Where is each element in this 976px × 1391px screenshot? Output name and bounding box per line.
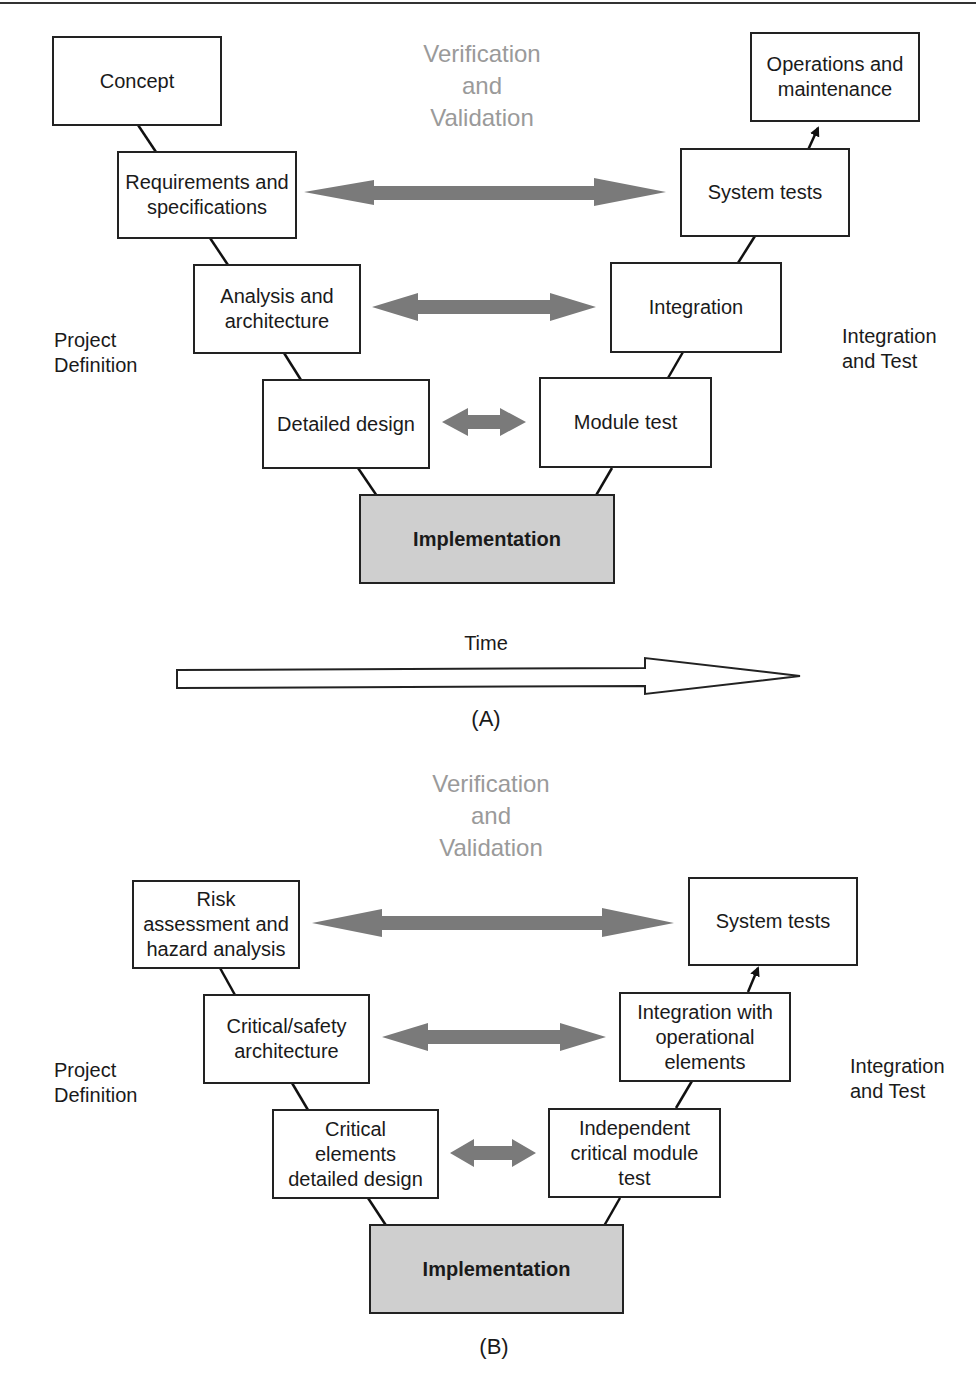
time-arrow xyxy=(177,658,800,694)
box-integration: Integration xyxy=(610,262,782,353)
vv-arrow-arch-integration xyxy=(382,1023,606,1051)
vv-arrow-requirements-system xyxy=(304,178,666,206)
phase-label-integration-test-b: Integration and Test xyxy=(850,1054,945,1104)
box-risk-assessment: Risk assessment and hazard analysis xyxy=(132,880,300,969)
box-integration-operational: Integration with operational elements xyxy=(619,992,791,1082)
vv-arrow-analysis-integration xyxy=(372,293,596,321)
vv-label-a: Verification and Validation xyxy=(402,38,562,134)
phase-label-integration-test-a: Integration and Test xyxy=(842,324,937,374)
phase-label-project-definition-b: Project Definition xyxy=(54,1058,137,1108)
box-critical-detailed-design: Critical elements detailed design xyxy=(272,1109,439,1199)
box-implementation-a: Implementation xyxy=(359,494,615,584)
box-independent-module-test: Independent critical module test xyxy=(548,1108,721,1198)
box-operations-maintenance: Operations and maintenance xyxy=(750,32,920,122)
box-implementation-b: Implementation xyxy=(369,1224,624,1314)
box-system-tests-b: System tests xyxy=(688,877,858,966)
box-requirements: Requirements and specifications xyxy=(117,151,297,239)
vv-arrow-design-moduletest xyxy=(450,1139,536,1167)
vv-label-b: Verification and Validation xyxy=(411,768,571,864)
box-critical-architecture: Critical/safety architecture xyxy=(203,994,370,1084)
box-analysis-architecture: Analysis and architecture xyxy=(193,264,361,354)
caption-b: (B) xyxy=(444,1334,544,1359)
connector-concept-requirements xyxy=(138,125,156,152)
vv-arrow-design-module xyxy=(442,408,526,436)
box-concept: Concept xyxy=(52,36,222,126)
phase-label-project-definition-a: Project Definition xyxy=(54,328,137,378)
box-module-test: Module test xyxy=(539,377,712,468)
box-system-tests-a: System tests xyxy=(680,148,850,237)
time-label: Time xyxy=(436,631,536,656)
vv-arrow-risk-system xyxy=(312,908,674,937)
caption-a: (A) xyxy=(436,706,536,731)
box-detailed-design: Detailed design xyxy=(262,379,430,469)
